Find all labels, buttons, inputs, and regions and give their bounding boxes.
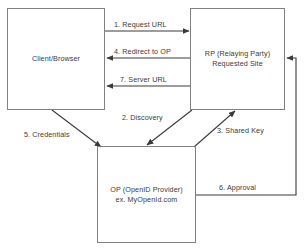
node-relying-party-label-line1: RP (Relaying Party) [205,49,270,59]
edge-label-2-discovery: 2. Discovery [122,113,163,122]
node-relying-party[interactable]: RP (Relaying Party) Requested Site [190,8,285,110]
node-client-browser-label-line1: Client/Browser [32,54,80,64]
node-client-browser[interactable]: Client/Browser [7,8,105,110]
edge-label-5-credentials: 5. Credentials [24,130,70,139]
node-openid-provider[interactable]: OP (OpenID Provider) ex. MyOpenId.com [97,146,196,243]
node-openid-provider-label-line2: ex. MyOpenId.com [116,195,178,205]
edge-label-4-redirect-to-op: 4. Redirect to OP [114,47,171,56]
node-relying-party-label-line2: Requested Site [212,59,263,69]
edge-label-3-shared-key: 3. Shared Key [217,126,264,135]
openid-flow-diagram: Client/Browser RP (Relaying Party) Reque… [0,0,305,248]
edge-label-1-request-url: 1. Request URL [114,20,167,29]
edge-label-6-approval: 6. Approval [219,183,256,192]
node-openid-provider-label-line1: OP (OpenID Provider) [110,185,183,195]
edge-label-7-server-url: 7. Server URL [120,75,167,84]
edge-5-credentials [52,110,101,147]
